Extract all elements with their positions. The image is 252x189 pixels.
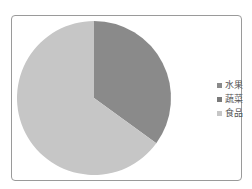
legend-swatch-icon bbox=[217, 111, 222, 116]
legend-item-fruit: 水果 bbox=[217, 78, 243, 92]
pie-chart bbox=[0, 0, 252, 189]
legend-swatch-icon bbox=[217, 83, 222, 88]
legend-item-food: 食品 bbox=[217, 106, 243, 120]
legend-swatch-icon bbox=[217, 97, 222, 102]
legend-label: 食品 bbox=[225, 106, 243, 120]
legend-label: 蔬菜 bbox=[225, 92, 243, 106]
legend: 水果 蔬菜 食品 bbox=[217, 78, 243, 120]
legend-item-vegetable: 蔬菜 bbox=[217, 92, 243, 106]
legend-label: 水果 bbox=[225, 78, 243, 92]
